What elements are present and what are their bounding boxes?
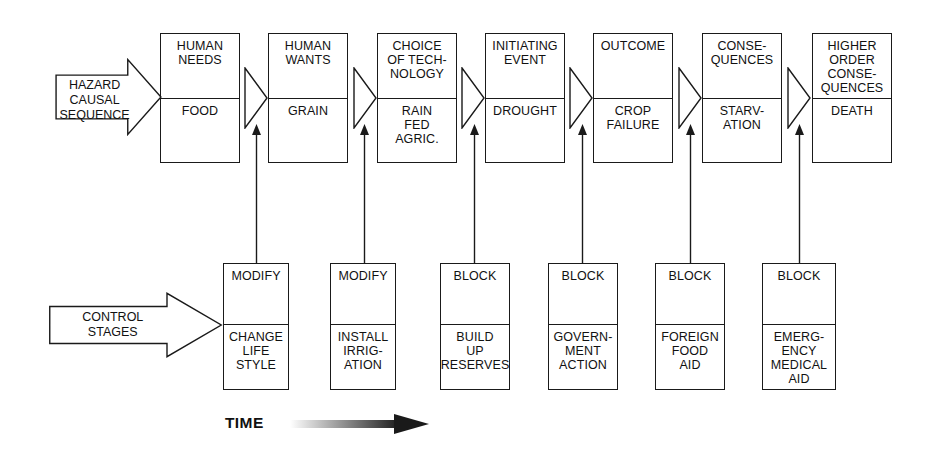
stage-box-head: HUMAN WANTS	[269, 34, 347, 99]
stage-box-head-label: INITIATING EVENT	[492, 39, 557, 67]
time-axis-arrow-icon	[290, 413, 430, 435]
stage-box-body-label: STARV- ATION	[720, 104, 765, 132]
stage-box-body: FOOD	[161, 98, 239, 162]
hazard-causal-sequence-arrow[interactable]: HAZARD CAUSAL SEQUENCE	[55, 58, 162, 136]
stage-box-body-label: RAIN FED AGRIC.	[395, 104, 439, 146]
stage-box-body-label: CROP FAILURE	[607, 104, 660, 132]
stage-box-head-label: HIGHER ORDER CONSE- QUENCES	[821, 39, 884, 95]
stage-box-head-label: BLOCK	[669, 269, 712, 283]
sequence-chevron-icon-4	[677, 67, 703, 129]
row-label-text: CONTROL STAGES	[48, 310, 178, 340]
stage-box-head-label: CONSE- QUENCES	[711, 39, 774, 67]
stage-box-body: EMERG- ENCY MEDICAL AID	[763, 324, 835, 389]
stage-box-head: BLOCK	[656, 264, 724, 325]
stage-box-head-label: BLOCK	[562, 269, 605, 283]
stage-box-top_row-3[interactable]: INITIATING EVENTDROUGHT	[485, 33, 565, 163]
stage-box-head: CONSE- QUENCES	[703, 34, 781, 99]
stage-box-body: DROUGHT	[486, 98, 564, 162]
stage-box-body-label: EMERG- ENCY MEDICAL AID	[771, 330, 827, 386]
sequence-chevron-icon-3	[568, 67, 594, 129]
stage-box-body: INSTALL IRRIG- ATION	[331, 324, 395, 389]
stage-box-head-label: HUMAN WANTS	[285, 39, 331, 67]
stage-box-head: MODIFY	[331, 264, 395, 325]
time-axis-label: TIME	[225, 414, 264, 432]
stage-box-bottom_row-5[interactable]: BLOCKEMERG- ENCY MEDICAL AID	[762, 263, 836, 390]
stage-box-body-label: INSTALL IRRIG- ATION	[338, 330, 389, 372]
stage-box-head-label: OUTCOME	[601, 39, 666, 53]
sequence-chevron-icon-5	[786, 67, 812, 129]
stage-box-body-label: BUILD UP RESERVES	[441, 330, 510, 372]
stage-box-bottom_row-0[interactable]: MODIFYCHANGE LIFE STYLE	[223, 263, 289, 390]
stage-box-bottom_row-4[interactable]: BLOCKFOREIGN FOOD AID	[655, 263, 725, 390]
stage-box-head: HUMAN NEEDS	[161, 34, 239, 99]
stage-box-body: CROP FAILURE	[594, 98, 672, 162]
control-connector-arrow-2	[468, 124, 481, 264]
stage-box-body: DEATH	[813, 98, 891, 162]
stage-box-body-label: FOREIGN FOOD AID	[661, 330, 719, 372]
stage-box-head: MODIFY	[224, 264, 288, 325]
control-connector-arrow-4	[684, 124, 697, 264]
stage-box-body-label: GRAIN	[288, 104, 328, 118]
stage-box-head-label: MODIFY	[338, 269, 387, 283]
control-stages-arrow[interactable]: CONTROL STAGES	[48, 292, 223, 358]
stage-box-bottom_row-3[interactable]: BLOCKGOVERN- MENT ACTION	[548, 263, 618, 390]
stage-box-top_row-0[interactable]: HUMAN NEEDSFOOD	[160, 33, 240, 163]
stage-box-body: STARV- ATION	[703, 98, 781, 162]
stage-box-head: BLOCK	[549, 264, 617, 325]
stage-box-body: GRAIN	[269, 98, 347, 162]
stage-box-top_row-5[interactable]: CONSE- QUENCESSTARV- ATION	[702, 33, 782, 163]
stage-box-body-label: DROUGHT	[493, 104, 557, 118]
control-connector-arrow-0	[250, 124, 263, 264]
sequence-chevron-icon-2	[460, 67, 486, 129]
stage-box-head: BLOCK	[763, 264, 835, 325]
stage-box-head: CHOICE OF TECH- NOLOGY	[378, 34, 456, 99]
stage-box-body: RAIN FED AGRIC.	[378, 98, 456, 162]
stage-box-top_row-1[interactable]: HUMAN WANTSGRAIN	[268, 33, 348, 163]
sequence-chevron-icon-0	[243, 67, 269, 129]
stage-box-body: BUILD UP RESERVES	[441, 324, 509, 389]
stage-box-head: BLOCK	[441, 264, 509, 325]
stage-box-top_row-6[interactable]: HIGHER ORDER CONSE- QUENCESDEATH	[812, 33, 892, 163]
stage-box-top_row-4[interactable]: OUTCOMECROP FAILURE	[593, 33, 673, 163]
row-label-text: HAZARD CAUSAL SEQUENCE	[55, 78, 134, 123]
stage-box-head: OUTCOME	[594, 34, 672, 99]
stage-box-body-label: CHANGE LIFE STYLE	[229, 330, 283, 372]
stage-box-bottom_row-2[interactable]: BLOCKBUILD UP RESERVES	[440, 263, 510, 390]
stage-box-body: GOVERN- MENT ACTION	[549, 324, 617, 389]
stage-box-body-label: FOOD	[182, 104, 219, 118]
stage-box-head-label: BLOCK	[778, 269, 821, 283]
control-connector-arrow-1	[358, 124, 371, 264]
stage-box-head-label: MODIFY	[231, 269, 280, 283]
stage-box-body-label: GOVERN- MENT ACTION	[553, 330, 612, 372]
sequence-chevron-icon-1	[352, 67, 378, 129]
stage-box-head-label: CHOICE OF TECH- NOLOGY	[387, 39, 447, 81]
stage-box-head-label: HUMAN NEEDS	[177, 39, 223, 67]
diagram-canvas: HUMAN NEEDSFOODHUMAN WANTSGRAINCHOICE OF…	[0, 0, 925, 455]
stage-box-head: INITIATING EVENT	[486, 34, 564, 99]
stage-box-bottom_row-1[interactable]: MODIFYINSTALL IRRIG- ATION	[330, 263, 396, 390]
stage-box-head: HIGHER ORDER CONSE- QUENCES	[813, 34, 891, 99]
stage-box-head-label: BLOCK	[454, 269, 497, 283]
stage-box-body-label: DEATH	[831, 104, 873, 118]
stage-box-body: FOREIGN FOOD AID	[656, 324, 724, 389]
stage-box-body: CHANGE LIFE STYLE	[224, 324, 288, 389]
stage-box-top_row-2[interactable]: CHOICE OF TECH- NOLOGYRAIN FED AGRIC.	[377, 33, 457, 163]
control-connector-arrow-3	[576, 124, 589, 264]
control-connector-arrow-5	[793, 124, 806, 264]
